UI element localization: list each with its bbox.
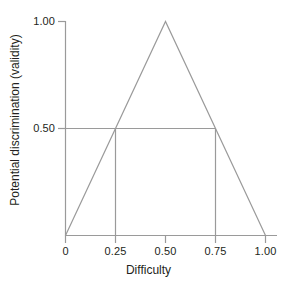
chart-figure: 1.00 0.50 0 0.25 0.50 0.75 1.00 Difficul…: [0, 0, 297, 290]
x-tick-label-0.25: 0.25: [98, 245, 133, 257]
y-axis-title-container: Potential discrimination (validity): [0, 0, 30, 240]
y-axis-title: Potential discrimination (validity): [8, 34, 22, 205]
x-tick-label-0.50: 0.50: [148, 245, 183, 257]
x-tick-label-0: 0: [51, 245, 80, 257]
x-tick-label-0.75: 0.75: [198, 245, 233, 257]
x-axis-title: Difficulty: [0, 263, 297, 277]
x-tick-label-1.00: 1.00: [248, 245, 283, 257]
